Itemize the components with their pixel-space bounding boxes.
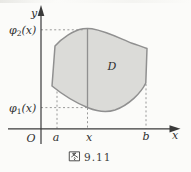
region-D-label: D <box>107 60 117 73</box>
x-axis-label: x <box>172 129 179 142</box>
tick-label-b: b <box>142 130 149 143</box>
region-D <box>52 28 147 111</box>
phi2-label: φ2(x) <box>9 24 36 38</box>
tick-label-x: x <box>86 131 93 144</box>
figure-canvas: y x O a x b φ2(x) φ1(x) D 9.11 <box>0 0 191 172</box>
caption-number: 9.11 <box>84 151 111 163</box>
tick-label-a: a <box>53 131 60 144</box>
figure-caption: 9.11 <box>70 151 112 163</box>
y-axis-arrow-icon <box>38 5 45 16</box>
phi1-label: φ1(x) <box>9 102 36 116</box>
origin-label: O <box>26 132 35 145</box>
figure-9-11: y x O a x b φ2(x) φ1(x) D 9.11 <box>0 0 191 172</box>
caption-cjk-tu-glyph <box>70 152 80 161</box>
y-axis-label: y <box>30 7 38 20</box>
